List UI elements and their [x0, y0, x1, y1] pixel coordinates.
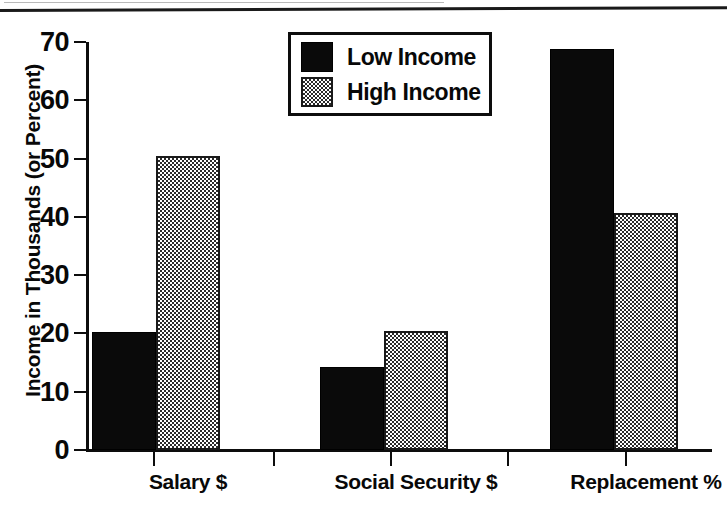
y-axis-line	[86, 42, 89, 451]
bar-low-income-social-security	[320, 367, 384, 450]
y-tick-mark	[74, 158, 86, 160]
y-tick-label: 60	[40, 85, 69, 116]
legend-swatch-low-income-icon	[301, 42, 333, 72]
x-tick-mark	[153, 452, 155, 466]
bar-low-income-replacement	[550, 49, 614, 450]
bar-chart: Income in Thousands (or Percent) 0102030…	[0, 0, 727, 518]
chart-legend: Low Income High Income	[288, 32, 492, 116]
y-tick-label: 50	[40, 143, 69, 174]
x-category-label: Replacement %	[570, 470, 721, 494]
x-category-label: Social Security $	[335, 470, 498, 494]
x-tick-mark	[273, 452, 275, 466]
y-tick-label: 40	[40, 201, 69, 232]
y-tick-mark	[74, 332, 86, 334]
y-tick-mark	[74, 449, 86, 451]
y-tick-mark	[74, 99, 86, 101]
legend-swatch-high-income-icon	[301, 77, 333, 107]
y-tick-label: 20	[40, 318, 69, 349]
y-tick-mark	[74, 216, 86, 218]
y-tick-label: 70	[40, 27, 69, 58]
legend-entry-high-income: High Income	[301, 77, 481, 107]
x-category-label: Salary $	[149, 470, 227, 494]
x-tick-mark	[390, 452, 392, 466]
y-tick-mark	[74, 274, 86, 276]
y-tick-mark	[74, 41, 86, 43]
y-tick-mark	[74, 391, 86, 393]
y-tick-label: 10	[40, 376, 69, 407]
bar-low-income-salary	[92, 332, 156, 450]
bar-high-income-social-security	[384, 331, 448, 450]
y-tick-label: 30	[40, 260, 69, 291]
bar-high-income-replacement	[614, 213, 678, 450]
legend-label-low-income: Low Income	[347, 44, 476, 71]
x-tick-mark	[625, 452, 627, 466]
legend-entry-low-income: Low Income	[301, 42, 476, 72]
bar-high-income-salary	[156, 156, 220, 450]
legend-label-high-income: High Income	[347, 79, 481, 106]
x-tick-mark	[507, 452, 509, 466]
y-tick-label: 0	[54, 435, 69, 466]
